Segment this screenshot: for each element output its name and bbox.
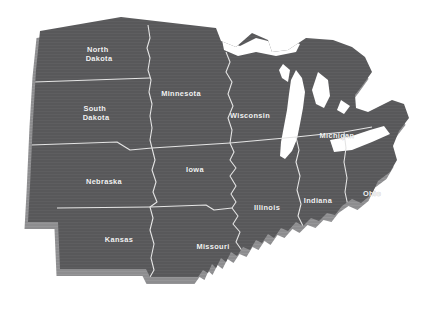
label-wisconsin: Wisconsin [230, 111, 270, 120]
label-illinois: Illinois [254, 203, 280, 212]
label-kansas: Kansas [105, 235, 133, 244]
label-missouri: Missouri [196, 242, 229, 251]
label-minnesota: Minnesota [161, 89, 201, 98]
label-north-dakota: North Dakota [86, 45, 113, 63]
map-svg: North Dakota South Dakota Nebraska Kansa… [0, 0, 437, 320]
label-ohio: Ohio [363, 189, 381, 198]
label-nebraska: Nebraska [86, 177, 123, 186]
label-iowa: Iowa [186, 165, 204, 174]
midwest-map: North Dakota South Dakota Nebraska Kansa… [0, 0, 437, 320]
label-michigan: Michigan [320, 131, 355, 140]
label-indiana: Indiana [304, 196, 333, 205]
label-south-dakota: South Dakota [83, 104, 110, 122]
